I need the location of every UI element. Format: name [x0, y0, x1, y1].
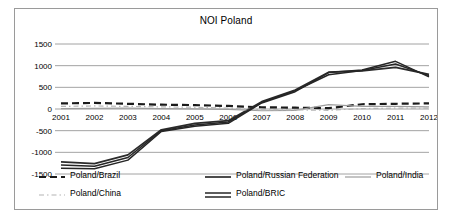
legend-swatch-india — [345, 169, 371, 181]
legend-row: Poland/ChinaPoland/BRIC — [27, 185, 427, 201]
svg-text:1500: 1500 — [34, 40, 52, 49]
legend-swatch-russia — [205, 169, 231, 181]
series-line-brazil — [61, 103, 429, 108]
svg-text:1000: 1000 — [34, 62, 52, 71]
chart-legend: Poland/BrazilPoland/Russian FederationPo… — [27, 167, 427, 207]
svg-text:2009: 2009 — [320, 113, 338, 122]
svg-text:500: 500 — [39, 83, 53, 92]
svg-text:2002: 2002 — [86, 113, 104, 122]
legend-item-china[interactable]: Poland/China — [39, 185, 121, 201]
legend-label-brazil: Poland/Brazil — [70, 170, 120, 180]
svg-text:-500: -500 — [36, 127, 53, 136]
svg-text:2010: 2010 — [353, 113, 371, 122]
legend-swatch-bric — [205, 187, 231, 199]
legend-label-russia: Poland/Russian Federation — [236, 170, 339, 180]
legend-label-bric: Poland/BRIC — [236, 188, 285, 198]
svg-text:2011: 2011 — [387, 113, 405, 122]
svg-text:2005: 2005 — [186, 113, 204, 122]
legend-swatch-china — [39, 187, 65, 199]
legend-label-india: Poland/India — [376, 170, 423, 180]
svg-text:2012: 2012 — [420, 113, 437, 122]
svg-text:-1000: -1000 — [32, 148, 53, 157]
legend-item-russia[interactable]: Poland/Russian Federation — [205, 167, 339, 183]
x-axis-tick-labels: 2001200220032004200520062007200820092010… — [52, 113, 437, 122]
chart-container: NOI Poland 150010005000-500-1000-1500 20… — [14, 8, 438, 210]
svg-text:2001: 2001 — [52, 113, 70, 122]
svg-text:2004: 2004 — [152, 113, 170, 122]
y-axis-tick-labels: 150010005000-500-1000-1500 — [32, 40, 53, 179]
legend-swatch-brazil — [39, 169, 65, 181]
series-line-india — [61, 105, 429, 111]
svg-text:2003: 2003 — [119, 113, 137, 122]
legend-item-india[interactable]: Poland/India — [345, 167, 423, 183]
series-line-russia — [61, 67, 429, 163]
gridlines-group — [55, 44, 429, 174]
legend-row: Poland/BrazilPoland/Russian FederationPo… — [27, 167, 427, 183]
legend-item-brazil[interactable]: Poland/Brazil — [39, 167, 120, 183]
svg-text:2008: 2008 — [286, 113, 304, 122]
legend-item-bric[interactable]: Poland/BRIC — [205, 185, 285, 201]
svg-text:2007: 2007 — [253, 113, 271, 122]
series-line-bric-secondary — [61, 64, 429, 166]
legend-label-china: Poland/China — [70, 188, 121, 198]
